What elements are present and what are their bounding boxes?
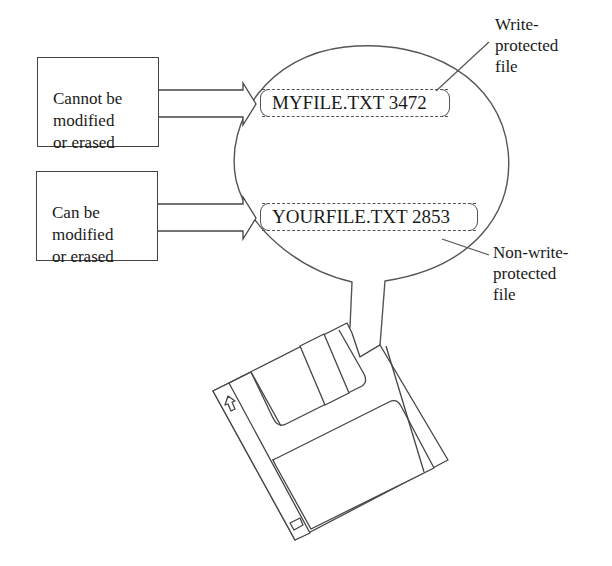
write-protected-description-box: Cannot be modified or erased: [37, 57, 159, 147]
non-write-protected-description-box: Can be modified or erased: [36, 171, 158, 261]
callout-non-write-protected: Non-write- protected file: [493, 242, 569, 305]
file-entry-myfile: MYFILE.TXT 3472: [262, 89, 448, 117]
floppy-disk-icon: [213, 323, 448, 540]
arrow-write-protected: [150, 83, 256, 125]
file-entry-myfile-label: MYFILE.TXT 3472: [272, 92, 427, 113]
file-entry-yourfile: YOURFILE.TXT 2853: [262, 203, 476, 231]
arrow-non-write-protected: [150, 197, 256, 239]
file-entry-yourfile-label: YOURFILE.TXT 2853: [272, 206, 450, 227]
non-write-protected-description-text: Can be modified or erased: [52, 203, 114, 266]
write-protected-description-text: Cannot be modified or erased: [53, 89, 122, 152]
callout-write-protected: Write- protected file: [495, 14, 558, 77]
